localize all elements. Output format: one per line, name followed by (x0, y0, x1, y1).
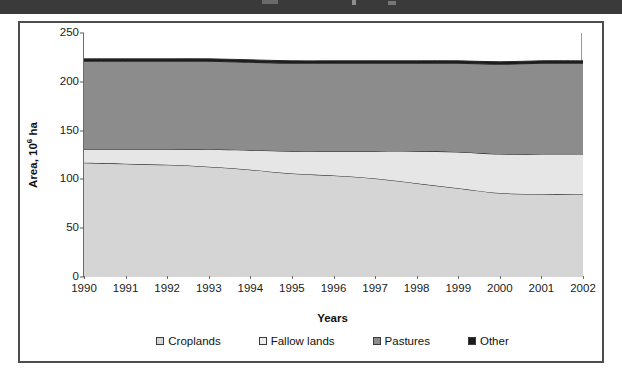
y-axis-title: Area, 106 ha (26, 33, 40, 277)
area-series-pastures (84, 61, 583, 154)
scan-artifact-nick (388, 1, 396, 5)
x-axis-tick-mark (417, 276, 418, 279)
x-axis-tick-label: 1994 (238, 283, 264, 295)
x-axis-tick-label: 1992 (154, 283, 180, 295)
chart-figure-frame: Area, 106 ha 050100150200250199019911992… (18, 21, 604, 363)
x-axis-tick-label: 1991 (113, 283, 139, 295)
y-axis-tick-label: 100 (60, 174, 79, 186)
y-axis-tick-label: 150 (60, 125, 79, 137)
y-axis-tick-mark (80, 228, 84, 229)
y-axis-tick-mark (80, 33, 84, 34)
y-axis-title-base: Area, 10 (27, 143, 39, 188)
x-axis-tick-label: 2002 (570, 283, 596, 295)
stacked-area-plot (84, 33, 583, 277)
x-axis-tick-label: 1996 (321, 283, 347, 295)
y-axis-tick-mark (80, 179, 84, 180)
legend-swatch-icon (468, 337, 476, 345)
x-axis-tick-label: 1990 (71, 283, 97, 295)
x-axis-tick-mark (126, 276, 127, 279)
x-axis-tick-label: 2000 (487, 283, 513, 295)
legend-item[interactable]: Other (468, 335, 509, 347)
plot-area: 0501001502002501990199119921993199419951… (83, 33, 582, 277)
x-axis-tick-label: 2001 (529, 283, 555, 295)
y-axis-tick-label: 250 (60, 27, 79, 39)
chart-legend: CroplandsFallow landsPasturesOther (83, 335, 582, 347)
x-axis-tick-label: 1999 (445, 283, 471, 295)
x-axis-tick-mark (500, 276, 501, 279)
y-axis-tick-mark (80, 81, 84, 82)
y-axis-tick-mark (80, 130, 84, 131)
x-axis-tick-mark (167, 276, 168, 279)
x-axis-tick-mark (292, 276, 293, 279)
y-axis-title-unit: ha (27, 122, 39, 139)
y-axis-tick-label: 200 (60, 76, 79, 88)
legend-item-label: Croplands (168, 335, 220, 347)
x-axis-tick-label: 1997 (362, 283, 388, 295)
x-axis-tick-mark (458, 276, 459, 279)
x-axis-tick-mark (250, 276, 251, 279)
x-axis-tick-mark (209, 276, 210, 279)
x-axis-tick-mark (84, 276, 85, 279)
legend-swatch-icon (373, 337, 381, 345)
x-axis-tick-label: 1998 (404, 283, 430, 295)
x-axis-tick-label: 1993 (196, 283, 222, 295)
scan-artifact-nick (352, 0, 356, 5)
legend-item[interactable]: Pastures (373, 335, 430, 347)
legend-item-label: Fallow lands (271, 335, 335, 347)
legend-swatch-icon (259, 337, 267, 345)
scan-artifact-top-band (0, 0, 622, 14)
x-axis-tick-mark (375, 276, 376, 279)
x-axis-tick-mark (334, 276, 335, 279)
y-axis-tick-label: 50 (66, 222, 79, 234)
scan-artifact-nick (262, 0, 278, 4)
legend-item-label: Other (480, 335, 509, 347)
x-axis-title: Years (83, 312, 582, 324)
x-axis-tick-mark (583, 276, 584, 279)
legend-item[interactable]: Fallow lands (259, 335, 335, 347)
x-axis-tick-mark (541, 276, 542, 279)
legend-item[interactable]: Croplands (156, 335, 220, 347)
y-axis-title-exponent: 6 (25, 139, 34, 143)
legend-item-label: Pastures (385, 335, 430, 347)
x-axis-tick-label: 1995 (279, 283, 305, 295)
legend-swatch-icon (156, 337, 164, 345)
